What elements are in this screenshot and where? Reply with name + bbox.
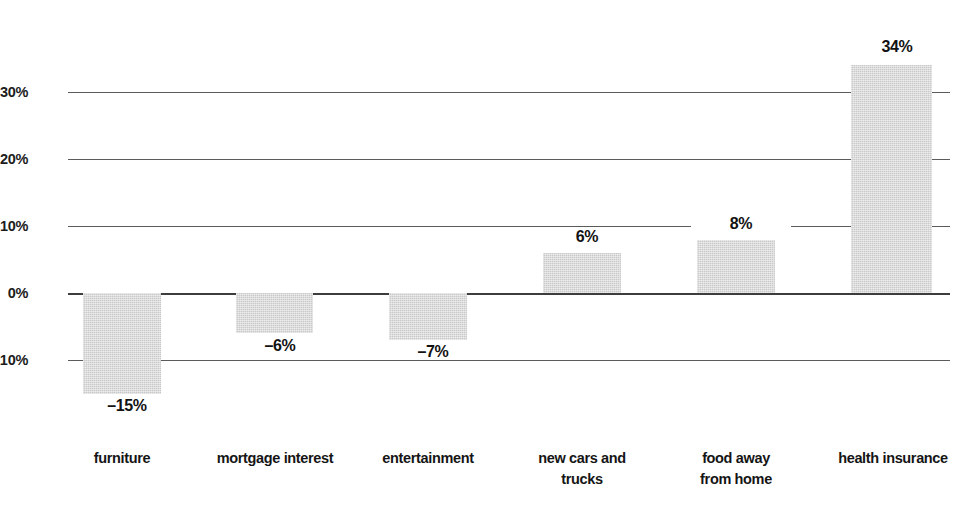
category-label-entertainment: entertainment <box>358 448 498 469</box>
y-tick-label-minus-10: –10% <box>0 352 28 368</box>
category-label-furniture: furniture <box>62 448 182 469</box>
bar-health-insurance <box>851 65 932 293</box>
bar-chart: 30% 20% 10% 0% –10% –15% –6% –7% 6% 8% 3… <box>0 0 978 521</box>
gridline-0-baseline <box>68 293 950 295</box>
gridline-20 <box>68 159 950 160</box>
y-tick-label-0: 0% <box>0 285 28 301</box>
bar-new-cars-and-trucks <box>543 253 621 293</box>
value-label-new-cars-and-trucks: 6% <box>537 228 637 245</box>
category-label-line: health insurance <box>819 448 967 469</box>
bar-mortgage-interest <box>236 293 313 333</box>
gridline-30 <box>68 92 950 93</box>
category-label-line: furniture <box>62 448 182 469</box>
value-label-mortgage-interest: –6% <box>230 337 330 354</box>
plot-area: 30% 20% 10% 0% –10% –15% –6% –7% 6% 8% 3… <box>68 0 950 440</box>
category-label-line: trucks <box>517 469 647 490</box>
value-label-entertainment: –7% <box>383 343 483 360</box>
y-tick-label-20: 20% <box>0 151 28 167</box>
category-label-line: entertainment <box>358 448 498 469</box>
value-label-health-insurance: 34% <box>846 38 948 55</box>
category-label-line: mortgage interest <box>195 448 355 469</box>
category-label-mortgage-interest: mortgage interest <box>195 448 355 469</box>
y-tick-label-10: 10% <box>0 218 28 234</box>
value-label-furniture: –15% <box>77 397 177 414</box>
bar-food-away-from-home <box>697 240 775 293</box>
value-label-food-away-from-home: 8% <box>691 215 791 232</box>
category-label-line: from home <box>676 469 796 490</box>
category-label-new-cars-and-trucks: new cars and trucks <box>517 448 647 490</box>
y-tick-label-30: 30% <box>0 84 28 100</box>
category-label-line: food away <box>676 448 796 469</box>
category-label-line: new cars and <box>517 448 647 469</box>
gridline-10 <box>68 226 950 227</box>
gridline-minus-10 <box>68 360 950 361</box>
bar-furniture <box>83 293 161 394</box>
bar-entertainment <box>389 293 467 340</box>
category-label-food-away-from-home: food away from home <box>676 448 796 490</box>
category-label-health-insurance: health insurance <box>819 448 967 469</box>
